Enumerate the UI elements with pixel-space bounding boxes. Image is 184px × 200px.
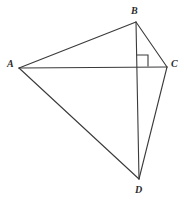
geometry-figure: A B C D (0, 0, 184, 200)
vertex-label-a: A (7, 59, 14, 69)
vertex-label-c: C (171, 59, 178, 69)
segment-bc (136, 22, 167, 67)
vertex-label-b: B (131, 6, 138, 16)
segment-ad (19, 68, 139, 179)
right-angle-icon (137, 55, 148, 66)
segment-ab (19, 22, 136, 68)
segment-cd (139, 67, 167, 179)
vertex-label-d: D (135, 185, 142, 195)
segment-bd (136, 22, 139, 179)
geometry-canvas (0, 0, 184, 200)
segment-ac (19, 67, 167, 68)
